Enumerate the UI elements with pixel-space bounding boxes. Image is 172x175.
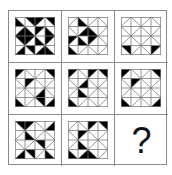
- pattern-tile: [121, 17, 161, 55]
- pattern-tile: [15, 17, 55, 55]
- puzzle-cell-r1-c1: [9, 11, 62, 63]
- pattern-tile: [68, 69, 108, 107]
- pattern-tile: [121, 69, 161, 107]
- pattern-tile: [15, 69, 55, 107]
- puzzle-cell-r1-c2: [62, 11, 115, 63]
- puzzle-cell-r3-c2: [62, 115, 115, 166]
- pattern-tile: [15, 121, 55, 159]
- puzzle-cell-r2-c1: [9, 63, 62, 115]
- question-mark: ?: [115, 115, 168, 166]
- puzzle-cell-r1-c3: [115, 11, 168, 63]
- pattern-tile: [68, 17, 108, 55]
- puzzle-cell-r2-c2: [62, 63, 115, 115]
- puzzle-cell-r2-c3: [115, 63, 168, 115]
- puzzle-board: ?: [8, 10, 167, 165]
- answer-cell: ?: [115, 115, 168, 166]
- pattern-tile: [68, 121, 108, 159]
- puzzle-cell-r3-c1: [9, 115, 62, 166]
